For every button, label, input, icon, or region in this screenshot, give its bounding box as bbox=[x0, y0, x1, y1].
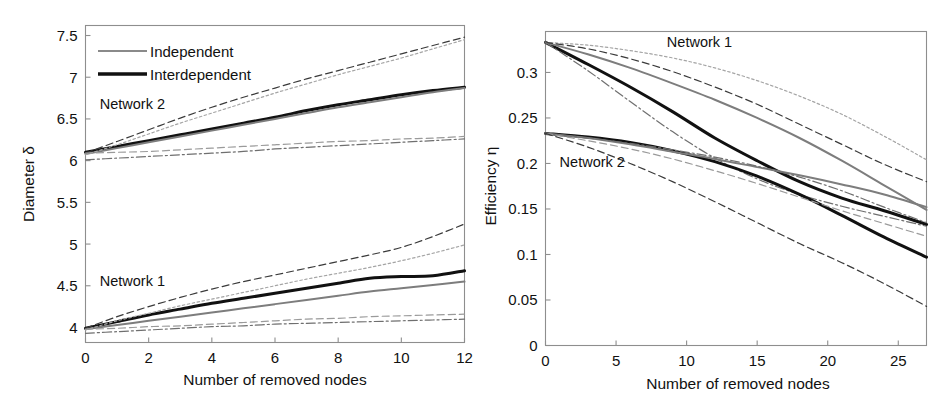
diameter-chart-svg: 024681012 44.555.566.577.5 Network 2Netw… bbox=[0, 0, 476, 408]
x-tick-label: 8 bbox=[334, 349, 342, 366]
series-annotations: Network 2Network 1 bbox=[100, 96, 165, 289]
y-axis-title: Efficiency η bbox=[482, 147, 499, 226]
y-tick-label: 0 bbox=[529, 337, 537, 354]
x-tick-label: 4 bbox=[208, 349, 216, 366]
y-tick-label: 6 bbox=[69, 152, 77, 169]
series-curve bbox=[86, 136, 465, 153]
legend: Independent Interdependent bbox=[98, 43, 252, 83]
y-tick-label: 7 bbox=[69, 69, 77, 86]
legend-label-independent: Independent bbox=[150, 43, 234, 60]
x-tick-label: 0 bbox=[541, 352, 549, 369]
y-tick-label: 4 bbox=[69, 319, 77, 336]
series-annotation: Network 2 bbox=[560, 154, 625, 170]
data-curves bbox=[546, 42, 927, 306]
series-curve bbox=[546, 133, 927, 222]
x-tick-label: 25 bbox=[890, 352, 907, 369]
series-annotation: Network 1 bbox=[100, 273, 165, 289]
chart-panel-efficiency: 0510152025 00.050.10.150.20.250.3 Networ… bbox=[476, 0, 952, 408]
y-tick-label: 0.25 bbox=[508, 109, 537, 126]
plot-frame bbox=[546, 32, 927, 346]
y-tick-label: 0.05 bbox=[508, 291, 537, 308]
y-tick-label: 0.3 bbox=[517, 64, 538, 81]
y-axis-title: Diameter δ bbox=[20, 146, 37, 222]
series-annotation: Network 1 bbox=[667, 34, 732, 50]
x-tick-labels: 0510152025 bbox=[541, 352, 906, 369]
y-tick-label: 5 bbox=[69, 236, 77, 253]
x-axis-title: Number of removed nodes bbox=[183, 371, 367, 388]
x-tick-label: 15 bbox=[749, 352, 766, 369]
x-tick-label: 2 bbox=[144, 349, 152, 366]
axis-ticks bbox=[546, 72, 899, 345]
y-tick-labels: 00.050.10.150.20.250.3 bbox=[508, 64, 537, 354]
efficiency-chart-svg: 0510152025 00.050.10.150.20.250.3 Networ… bbox=[476, 0, 952, 408]
y-tick-label: 0.1 bbox=[517, 246, 538, 263]
x-tick-label: 0 bbox=[81, 349, 89, 366]
figure-root: 024681012 44.555.566.577.5 Network 2Netw… bbox=[0, 0, 952, 408]
y-tick-label: 4.5 bbox=[57, 277, 78, 294]
x-tick-label: 10 bbox=[393, 349, 410, 366]
x-tick-label: 6 bbox=[271, 349, 279, 366]
y-tick-label: 7.5 bbox=[57, 27, 78, 44]
y-tick-labels: 44.555.566.577.5 bbox=[57, 27, 78, 336]
y-tick-label: 6.5 bbox=[57, 110, 78, 127]
x-tick-label: 20 bbox=[819, 352, 836, 369]
chart-panel-diameter: 024681012 44.555.566.577.5 Network 2Netw… bbox=[0, 0, 476, 408]
x-tick-label: 5 bbox=[612, 352, 620, 369]
series-curve bbox=[546, 42, 927, 159]
data-curves bbox=[86, 37, 465, 333]
axis-ticks bbox=[86, 36, 465, 343]
y-tick-label: 0.15 bbox=[508, 200, 537, 217]
series-curve bbox=[546, 133, 927, 207]
series-curve bbox=[546, 42, 927, 224]
series-curve bbox=[546, 42, 927, 209]
y-tick-label: 0.2 bbox=[517, 155, 538, 172]
legend-label-interdependent: Interdependent bbox=[150, 66, 252, 83]
x-tick-label: 10 bbox=[678, 352, 695, 369]
series-curve bbox=[546, 42, 927, 226]
x-tick-labels: 024681012 bbox=[81, 349, 473, 366]
x-tick-label: 12 bbox=[456, 349, 473, 366]
y-tick-label: 5.5 bbox=[57, 194, 78, 211]
series-annotation: Network 2 bbox=[100, 96, 165, 112]
x-axis-title: Number of removed nodes bbox=[646, 375, 830, 392]
